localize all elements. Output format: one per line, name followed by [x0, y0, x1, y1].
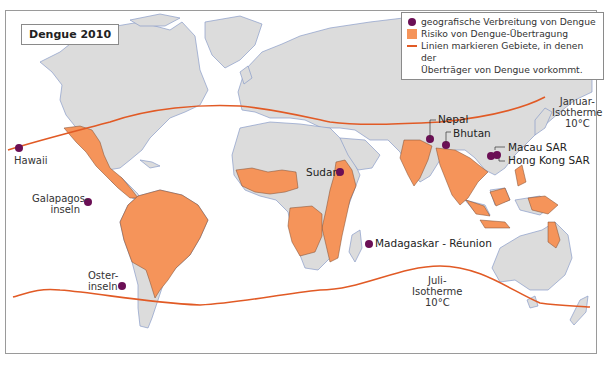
macau-label: Macau SAR	[508, 142, 567, 153]
legend-item-risk: Risiko von Dengue-Übertragung	[406, 28, 599, 40]
hawaii-label: Hawaii	[14, 155, 48, 166]
square-icon	[406, 28, 418, 40]
nepal-marker	[426, 135, 434, 143]
easter-island-label: Oster-inseln	[88, 270, 118, 292]
galapagos-label: Galapagos-inseln	[32, 193, 80, 215]
sudan-label: Sudan	[306, 167, 339, 178]
hawaii-marker	[15, 144, 23, 152]
bhutan-marker	[442, 141, 450, 149]
sudan-marker	[336, 168, 344, 176]
hongkong-marker	[493, 151, 501, 159]
dot-icon	[406, 16, 418, 28]
legend-item-distribution: geografische Verbreitung von Dengue	[406, 16, 599, 28]
bhutan-label: Bhutan	[453, 128, 491, 139]
legend-item-isotherm: Linien markieren Gebiete, in denen der Ü…	[406, 40, 599, 76]
hongkong-label: Hong Kong SAR	[508, 155, 590, 166]
map-title: Dengue 2010	[21, 24, 119, 45]
legend-label: Risiko von Dengue-Übertragung	[421, 28, 568, 40]
risk-south-america	[120, 190, 208, 298]
januar-isotherme-label: Januar-Isotherme10°C	[552, 96, 603, 129]
easter-island-marker	[118, 282, 126, 290]
madagascar-label: Madagaskar - Réunion	[375, 238, 492, 249]
legend-label: geografische Verbreitung von Dengue	[421, 16, 596, 28]
greenland	[205, 16, 262, 68]
australia	[492, 222, 572, 290]
map-legend: geografische Verbreitung von Dengue Risi…	[401, 12, 604, 80]
madagascar-marker	[365, 240, 373, 248]
nepal-label: Nepal	[438, 114, 468, 125]
legend-label: Linien markieren Gebiete, in denen der Ü…	[421, 40, 599, 76]
juli-isotherme-label: Juli-Isotherme10°C	[412, 275, 463, 308]
line-icon	[406, 40, 418, 52]
